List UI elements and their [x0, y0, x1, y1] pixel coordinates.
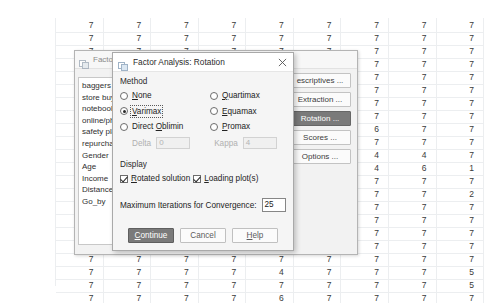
rotation-parameters: Delta0Kappa4	[120, 137, 286, 149]
rotation-dialog-titlebar[interactable]: Factor Analysis: Rotation	[113, 53, 293, 72]
radio-indicator[interactable]	[210, 92, 218, 100]
radio-indicator[interactable]	[210, 123, 218, 131]
radio-indicator[interactable]	[210, 107, 218, 115]
screen: 7777777777777777777777777777777777777777…	[0, 0, 484, 303]
rotation-dialog-footer[interactable]: ContinueCancelHelp	[113, 228, 293, 243]
method-group: Method NoneQuartimaxVarimaxEquamaxDirect…	[120, 77, 286, 149]
side-button-escriptives[interactable]: escriptives ...	[289, 73, 351, 88]
max-iterations-label: Maximum Iterations for Convergence:	[120, 201, 257, 210]
spreadsheet-cell[interactable]: 7	[389, 291, 437, 303]
spreadsheet-cell[interactable]: 7	[56, 291, 104, 303]
radio-direct-oblimin[interactable]: Direct Oblimin	[120, 120, 210, 133]
radio-varimax[interactable]: Varimax	[120, 105, 210, 118]
continue-button[interactable]: Continue	[128, 228, 174, 243]
factor-analysis-rotation-dialog[interactable]: Factor Analysis: Rotation Method NoneQua…	[112, 52, 294, 251]
spreadsheet-row[interactable]: 777767777	[56, 291, 484, 303]
help-button[interactable]: Help	[232, 228, 278, 243]
cancel-button[interactable]: Cancel	[180, 228, 226, 243]
checkbox-loading-plot-s-[interactable]: Loading plot(s)	[193, 172, 258, 185]
row-header-gutter	[0, 18, 56, 286]
side-button-scores[interactable]: Scores ...	[289, 130, 351, 145]
radio-label: Promax	[222, 122, 250, 131]
spreadsheet-cell[interactable]: 7	[341, 291, 389, 303]
side-button-rotation[interactable]: Rotation ...	[289, 111, 351, 126]
radio-indicator[interactable]	[120, 107, 128, 115]
spreadsheet-cell[interactable]: 6	[246, 291, 294, 303]
kappa-input: 4	[243, 137, 277, 149]
spreadsheet-cell[interactable]: 7	[199, 291, 247, 303]
radio-indicator[interactable]	[120, 92, 128, 100]
checkbox-indicator[interactable]	[193, 175, 201, 183]
radio-label: Varimax	[132, 107, 161, 116]
spreadsheet-cell[interactable]: 7	[437, 291, 484, 303]
close-icon[interactable]	[276, 56, 289, 69]
rotation-dialog-body: Method NoneQuartimaxVarimaxEquamaxDirect…	[113, 72, 293, 251]
spreadsheet-cell[interactable]: 7	[294, 291, 342, 303]
spss-dialog-icon	[118, 57, 128, 67]
rotation-dialog-title: Factor Analysis: Rotation	[133, 57, 271, 67]
checkbox-label: Loading plot(s)	[204, 174, 258, 183]
radio-equamax[interactable]: Equamax	[210, 105, 286, 118]
display-group: Display Rotated solutionLoading plot(s)	[120, 160, 286, 185]
spreadsheet-cell[interactable]: 7	[151, 291, 199, 303]
kappa-label: Kappa	[214, 139, 238, 148]
radio-indicator[interactable]	[120, 123, 128, 131]
radio-label: Equamax	[222, 107, 257, 116]
checkbox-label: Rotated solution	[131, 174, 190, 183]
radio-promax[interactable]: Promax	[210, 120, 286, 133]
side-button-options[interactable]: Options ...	[289, 149, 351, 164]
method-group-label: Method	[120, 77, 286, 86]
side-button-extraction[interactable]: Extraction ...	[289, 92, 351, 107]
display-checkbox-group[interactable]: Rotated solutionLoading plot(s)	[120, 172, 286, 185]
delta-input: 0	[156, 137, 190, 149]
delta-label: Delta	[132, 139, 151, 148]
radio-none[interactable]: None	[120, 89, 210, 102]
factor-analysis-side-buttons[interactable]: escriptives ...Extraction ...Rotation ..…	[289, 73, 351, 164]
method-radio-group[interactable]: NoneQuartimaxVarimaxEquamaxDirect Oblimi…	[120, 89, 286, 133]
max-iterations-row[interactable]: Maximum Iterations for Convergence: 25	[120, 198, 286, 212]
display-group-label: Display	[120, 160, 286, 169]
radio-label: None	[132, 91, 152, 100]
checkbox-rotated-solution[interactable]: Rotated solution	[120, 172, 190, 185]
radio-quartimax[interactable]: Quartimax	[210, 89, 286, 102]
radio-label: Direct Oblimin	[132, 122, 183, 131]
max-iterations-input[interactable]: 25	[262, 198, 286, 212]
checkbox-indicator[interactable]	[120, 175, 128, 183]
spreadsheet-cell[interactable]: 7	[104, 291, 152, 303]
radio-label: Quartimax	[222, 91, 260, 100]
spss-dialog-icon	[79, 55, 89, 65]
